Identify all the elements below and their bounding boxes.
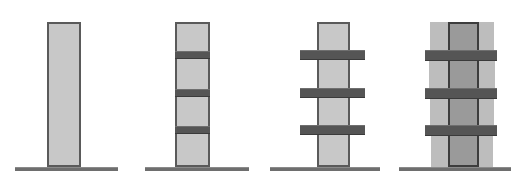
floor-slab-1	[175, 51, 210, 59]
floor-slab-2	[300, 88, 365, 98]
ground-line	[399, 167, 511, 171]
ground-line	[15, 167, 118, 171]
floor-slab-2	[425, 88, 497, 99]
floor-slab-2	[175, 89, 210, 97]
deformed-tower-with-outriggers	[393, 0, 524, 184]
bare-tower	[0, 0, 131, 184]
floor-slab-3	[300, 125, 365, 135]
floor-slab-3	[175, 126, 210, 134]
floor-slab-1	[425, 50, 497, 61]
ground-line	[270, 167, 380, 171]
floor-slab-3	[425, 125, 497, 136]
tower-with-cantilevered-outriggers	[262, 0, 393, 184]
tower-with-flush-floor-bands	[131, 0, 262, 184]
floor-slab-1	[300, 50, 365, 60]
tower-shaft	[47, 22, 81, 167]
ground-line	[145, 167, 249, 171]
figure-canvas	[0, 0, 524, 184]
